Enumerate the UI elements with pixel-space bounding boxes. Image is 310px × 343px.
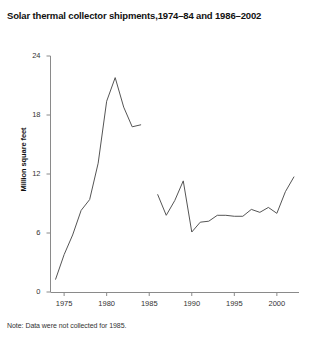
y-tick-label: 12 [19, 169, 41, 178]
y-tick-label: 24 [19, 51, 41, 60]
data-line-1986–2002 [158, 177, 294, 232]
x-tick-label: 1980 [90, 299, 124, 308]
y-axis-label: Million square feet [19, 110, 28, 210]
chart-note: Note: Data were not collected for 1985. [7, 322, 126, 329]
x-tick-label: 1985 [132, 299, 166, 308]
y-tick-label: 0 [19, 287, 41, 296]
plot-area: Million square feet 06121824 19751980198… [0, 0, 310, 310]
chart-canvas [0, 0, 310, 310]
chart-figure: Solar thermal collector shipments,1974–8… [0, 0, 310, 343]
x-tick-label: 2000 [260, 299, 294, 308]
axes [51, 56, 300, 293]
y-tick-marks [47, 56, 51, 292]
x-tick-label: 1975 [47, 299, 81, 308]
y-tick-label: 6 [19, 228, 41, 237]
x-tick-label: 1995 [217, 299, 251, 308]
data-line-1974–84 [56, 78, 141, 280]
y-tick-label: 18 [19, 110, 41, 119]
x-tick-label: 1990 [175, 299, 209, 308]
data-series-group [56, 78, 294, 280]
